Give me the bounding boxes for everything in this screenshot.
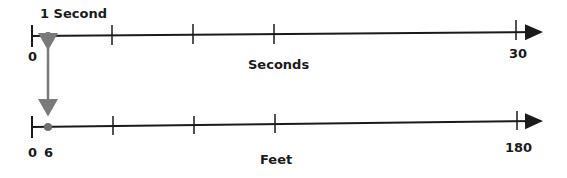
six-feet-point xyxy=(44,123,52,131)
one-second-point xyxy=(44,32,52,40)
seconds-tick-30: 30 xyxy=(509,46,527,61)
feet-tick-6: 6 xyxy=(44,145,53,160)
one-second-label: 1 Second xyxy=(40,6,107,21)
seconds-number-line xyxy=(32,20,541,47)
feet-tick-180: 180 xyxy=(505,140,532,155)
seconds-axis-label: Seconds xyxy=(248,57,309,72)
feet-axis-label: Feet xyxy=(260,152,292,167)
feet-tick-0: 0 xyxy=(28,145,37,160)
seconds-tick-0: 0 xyxy=(28,49,37,64)
feet-number-line xyxy=(32,111,541,138)
